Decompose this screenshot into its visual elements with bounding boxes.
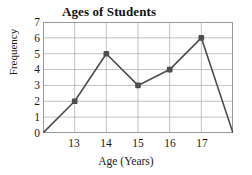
y-tick-1: 1	[20, 112, 40, 124]
x-tick-16: 16	[158, 138, 182, 150]
x-tick-15: 15	[126, 138, 150, 150]
chart-container: Ages of Students Frequency Age (Years) 7…	[0, 0, 252, 175]
y-tick-6: 6	[20, 33, 40, 45]
y-axis-label: Frequency	[7, 17, 19, 87]
x-tick-13: 13	[62, 138, 86, 150]
data-point-14	[104, 51, 110, 57]
x-axis-label: Age (Years)	[0, 155, 252, 167]
chart-title: Ages of Students	[62, 4, 156, 20]
data-point-13	[72, 99, 78, 105]
y-tick-4: 4	[20, 64, 40, 76]
vertical-gridlines	[75, 22, 202, 133]
plot-area	[43, 22, 233, 133]
y-tick-7: 7	[20, 17, 40, 29]
data-point-15	[135, 83, 141, 89]
plot-svg	[43, 22, 233, 133]
y-tick-5: 5	[20, 49, 40, 61]
y-tick-2: 2	[20, 96, 40, 108]
y-tick-3: 3	[20, 80, 40, 92]
data-point-17	[199, 35, 205, 41]
y-tick-0: 0	[20, 128, 40, 140]
data-point-16	[167, 67, 173, 73]
x-tick-17: 17	[190, 138, 214, 150]
x-tick-14: 14	[94, 138, 118, 150]
